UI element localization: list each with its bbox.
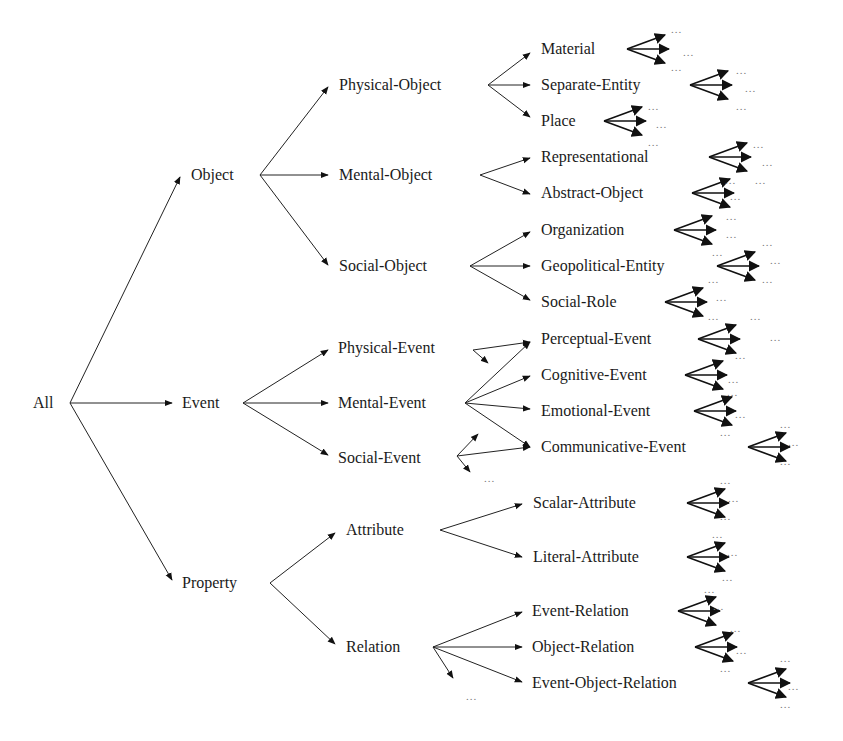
ellipsis-mark: ...	[770, 254, 781, 266]
fan-arrow	[717, 266, 755, 280]
ellipsis-mark: ...	[720, 662, 731, 674]
node-abstract-object: Abstract-Object	[541, 184, 644, 202]
ellipsis-mark: ...	[745, 82, 756, 94]
edges-layer	[70, 53, 530, 682]
edge-arrow	[457, 434, 478, 456]
fan-arrow	[694, 397, 732, 411]
node-cognitive-event: Cognitive-Event	[541, 366, 647, 384]
ellipsis-mark: ...	[466, 690, 477, 702]
ellipsis-mark: ...	[484, 472, 495, 484]
ellipsis-mark: ...	[750, 310, 761, 322]
edge-arrow	[488, 53, 530, 85]
ellipsis-mark: ...	[720, 474, 731, 486]
node-separate-entity: Separate-Entity	[541, 76, 641, 94]
leaf-fan-arrows	[685, 361, 727, 389]
ellipsis-mark: ...	[753, 138, 764, 150]
fan-arrow	[685, 361, 723, 375]
ellipsis-mark: ...	[713, 600, 724, 612]
ellipsis-mark: ...	[780, 652, 791, 664]
ellipsis-mark: ...	[788, 680, 799, 692]
fan-arrow	[627, 35, 665, 49]
ellipsis-mark: ...	[736, 644, 747, 656]
fan-arrow	[709, 143, 747, 157]
leaf-fan-arrows	[627, 35, 669, 63]
edge-arrow	[243, 350, 328, 403]
fan-arrow	[674, 230, 712, 244]
fan-arrow	[709, 157, 747, 171]
leaf-fan-arrows	[709, 143, 751, 171]
edge-arrow	[433, 647, 453, 678]
node-scalar-attribute: Scalar-Attribute	[533, 494, 636, 511]
edge-arrow	[457, 447, 530, 456]
ellipsis-mark: ...	[735, 349, 746, 361]
node-event-object-relation: Event-Object-Relation	[532, 674, 677, 692]
edge-arrow	[470, 266, 530, 300]
fan-arrow	[695, 647, 733, 661]
leaf-fan-arrows	[694, 397, 736, 425]
node-all: All	[33, 394, 54, 411]
diagram-canvas: ........................................…	[0, 0, 843, 741]
node-social-object: Social-Object	[339, 257, 428, 275]
edge-arrow	[270, 583, 335, 644]
fan-arrow	[690, 71, 728, 85]
node-emotional-event: Emotional-Event	[541, 402, 651, 419]
fan-arrow	[604, 107, 642, 121]
ellipsis-mark: ...	[708, 310, 719, 322]
fan-arrow	[748, 683, 786, 697]
ellipsis-mark: ...	[726, 210, 737, 222]
ellipsis-mark: ...	[725, 174, 736, 186]
node-geopolitical-entity: Geopolitical-Entity	[541, 257, 665, 275]
ellipsis-mark: ...	[788, 436, 799, 448]
nodes-layer: AllObjectEventPropertyPhysical-ObjectMen…	[33, 40, 686, 692]
edge-arrow	[480, 175, 530, 194]
ellipsis-mark: ...	[780, 455, 791, 467]
edge-arrow	[70, 177, 180, 403]
edge-arrow	[465, 403, 530, 409]
ellipsis-mark: ...	[762, 273, 773, 285]
fan-arrow	[694, 411, 732, 425]
fan-arrow	[665, 288, 703, 302]
fan-arrow	[690, 85, 728, 99]
fan-arrow	[627, 49, 665, 63]
leaf-fan-arrows	[748, 669, 790, 697]
leaf-fan-arrows	[665, 288, 707, 316]
fan-arrow	[687, 543, 725, 557]
ellipsis-mark: ...	[656, 118, 667, 130]
edge-arrow	[480, 158, 530, 175]
node-property: Property	[182, 574, 237, 592]
leaf-fan-arrows	[695, 633, 737, 661]
leaf-fan-arrows	[698, 325, 740, 353]
edge-arrow	[260, 175, 328, 265]
edge-arrow	[433, 647, 522, 682]
ellipsis-mark: ...	[728, 492, 739, 504]
edge-arrow	[470, 232, 530, 266]
ellipsis-mark: ...	[730, 190, 741, 202]
node-representational: Representational	[541, 148, 649, 166]
fan-arrow	[687, 489, 725, 503]
ellipsis-mark: ...	[708, 273, 719, 285]
ellipsis-mark: ...	[762, 236, 773, 248]
ellipsis-mark: ...	[648, 136, 659, 148]
node-material: Material	[541, 40, 596, 57]
ellipsis-mark: ...	[730, 622, 741, 634]
leaf-fan-arrows	[604, 107, 646, 135]
fan-arrow	[698, 339, 736, 353]
edge-arrow	[70, 403, 172, 580]
ellipsis-mark: ...	[716, 291, 727, 303]
ellipsis-mark: ...	[770, 331, 781, 343]
edge-arrow	[270, 533, 335, 583]
fan-arrow	[692, 193, 730, 207]
ellipsis-mark: ...	[780, 418, 791, 430]
ellipsis-mark: ...	[728, 373, 739, 385]
ellipsis-mark: ...	[704, 583, 715, 595]
edge-arrow	[243, 403, 328, 455]
node-social-event: Social-Event	[338, 449, 421, 466]
node-mental-event: Mental-Event	[338, 394, 427, 411]
fan-arrow	[674, 216, 712, 230]
node-organization: Organization	[541, 221, 624, 239]
ellipsis-mark: ...	[720, 510, 731, 522]
ellipsis-mark: ...	[735, 408, 746, 420]
fan-arrow	[685, 375, 723, 389]
ellipsis-mark: ...	[762, 156, 773, 168]
fan-arrow	[678, 611, 716, 625]
